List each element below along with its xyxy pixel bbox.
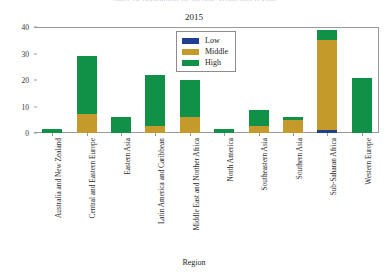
bar-segment-high[interactable] (352, 78, 372, 133)
x-axis-tick-mark (327, 133, 328, 136)
x-axis-tick-label: Central and Eastern Europe (89, 138, 96, 218)
legend-label-high: High (205, 57, 221, 68)
bar-segment-middle[interactable] (283, 120, 303, 133)
legend-label-middle: Middle (205, 46, 228, 57)
bar-segment-high[interactable] (111, 117, 131, 133)
x-axis-tick-label: Sub-Saharan Africa (330, 138, 337, 195)
bar-group[interactable] (180, 80, 200, 133)
y-axis-tick-label: 0 (0, 129, 34, 138)
y-axis-tick-label: 40 (0, 23, 34, 32)
x-axis-tick-mark (121, 133, 122, 136)
chart-title: 2015 (0, 12, 388, 22)
y-axis-tick-label: 10 (0, 102, 34, 111)
bar-segment-middle[interactable] (249, 126, 269, 133)
x-axis-tick-label: Southern Asia (296, 138, 303, 179)
bar-group[interactable] (352, 78, 372, 133)
legend-item[interactable]: Low (182, 35, 228, 46)
x-axis-tick-label: Middle East and Norther Africa (193, 138, 200, 230)
bar-segment-middle[interactable] (180, 117, 200, 133)
bar-segment-middle[interactable] (317, 40, 337, 130)
x-axis-title: Region (0, 258, 388, 267)
bar-group[interactable] (111, 117, 131, 133)
bar-segment-middle[interactable] (77, 114, 97, 133)
bar-segment-high[interactable] (145, 75, 165, 127)
x-axis-tick-label: Western Europe (365, 138, 372, 185)
x-axis-tick-label: Southeastern Asia (261, 138, 268, 191)
legend-label-low: Low (205, 35, 220, 46)
x-axis-tick-label: Australia and New Zealand (55, 138, 62, 218)
bar-group[interactable] (145, 75, 165, 133)
bar-segment-high[interactable] (77, 56, 97, 114)
x-axis-tick-label: Eastern Asia (124, 138, 131, 175)
legend-swatch-middle-icon (182, 49, 199, 55)
x-axis-tick-mark (362, 133, 363, 136)
bar-group[interactable] (77, 56, 97, 133)
x-axis-tick-mark (87, 133, 88, 136)
bar-segment-middle[interactable] (145, 126, 165, 133)
x-axis-tick-mark (259, 133, 260, 136)
bar-group[interactable] (317, 30, 337, 133)
legend-item[interactable]: Middle (182, 46, 228, 57)
legend-item[interactable]: High (182, 57, 228, 68)
bar-group[interactable] (283, 117, 303, 133)
x-axis-labels: Australia and New ZealandCentral and Eas… (35, 138, 379, 246)
x-axis-tick-mark (52, 133, 53, 136)
bar-group[interactable] (249, 110, 269, 133)
x-axis-tick-mark (155, 133, 156, 136)
x-axis-tick-mark (224, 133, 225, 136)
x-axis-tick-mark (190, 133, 191, 136)
y-axis-tick-label: 20 (0, 76, 34, 85)
suptitle-clipped: Share of population by income group and … (0, 0, 388, 1)
x-axis-tick-label: North America (227, 138, 234, 182)
bar-segment-high[interactable] (317, 30, 337, 41)
x-axis-tick-label: Latin America and Caribbean (158, 138, 165, 224)
x-axis-tick-mark (293, 133, 294, 136)
bar-segment-high[interactable] (180, 80, 200, 117)
legend: Low Middle High (176, 31, 236, 72)
legend-swatch-low-icon (182, 38, 199, 44)
bar-segment-high[interactable] (249, 110, 269, 126)
legend-swatch-high-icon (182, 60, 199, 66)
y-axis-tick-label: 30 (0, 49, 34, 58)
